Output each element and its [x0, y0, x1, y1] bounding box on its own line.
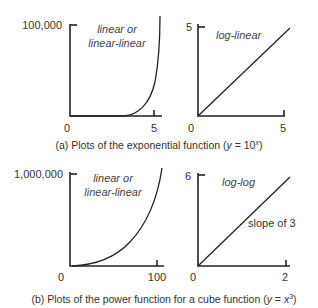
x-tick-label-5: 5 — [280, 122, 286, 134]
x-tick-label-0: 0 — [188, 122, 194, 134]
x-tick-label-2: 2 — [282, 271, 288, 283]
plot-title-line1: linear or — [97, 23, 138, 35]
plot-title-line2: linear-linear — [84, 186, 143, 198]
slope-annotation: slope of 3 — [248, 217, 296, 229]
plot-b-linear: 1,000,000 linear or linear-linear 0 100 — [14, 168, 166, 283]
plot-title: log-linear — [216, 29, 263, 41]
y-tick-label: 100,000 — [22, 19, 62, 31]
plot-title-line2: linear-linear — [88, 37, 147, 49]
figure: 100,000 linear or linear-linear 0 5 5 lo… — [0, 0, 318, 308]
plot-title-line1: linear or — [93, 172, 134, 184]
plot-b-log-log: 6 log-log slope of 3 0 2 — [185, 170, 296, 283]
linear-line — [198, 28, 290, 116]
y-tick-label: 6 — [185, 170, 191, 182]
plot-a-log-linear: 5 log-linear 0 5 — [186, 21, 290, 134]
plot-a-linear: 100,000 linear or linear-linear 0 5 — [22, 16, 162, 134]
x-tick-label-0: 0 — [64, 122, 70, 134]
y-tick-label: 5 — [186, 21, 192, 33]
x-tick-label-0: 0 — [190, 271, 196, 283]
y-tick-label: 1,000,000 — [14, 168, 63, 180]
x-tick-label-100: 100 — [148, 271, 166, 283]
caption-a: (a) Plots of the exponential function (y… — [56, 139, 263, 151]
plot-title: log-log — [222, 176, 256, 188]
x-tick-label-5: 5 — [151, 122, 157, 134]
caption-b: (b) Plots of the power function for a cu… — [31, 293, 296, 305]
x-tick-label-0: 0 — [58, 271, 64, 283]
